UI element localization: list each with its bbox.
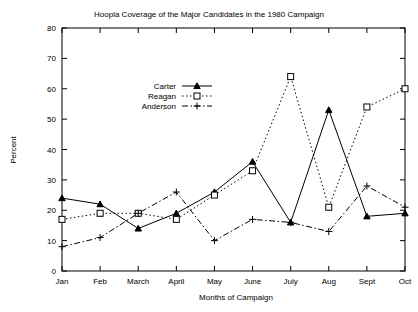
y-tick-label: 80 (47, 24, 56, 33)
data-point-marker (402, 86, 408, 92)
x-axis-title: Months of Campaign (199, 293, 273, 302)
y-tick-label: 10 (47, 237, 56, 246)
x-tick-label: Oct (399, 277, 412, 286)
y-tick-label: 60 (47, 85, 56, 94)
data-point-marker (288, 74, 294, 80)
data-point-marker (250, 168, 256, 174)
x-tick-label: Aug (322, 277, 336, 286)
y-tick-label: 30 (47, 176, 56, 185)
data-point-marker (194, 93, 200, 99)
legend-label-reagan: Reagan (148, 92, 176, 101)
chart-background (0, 0, 418, 312)
y-tick-label: 40 (47, 146, 56, 155)
data-point-marker (326, 204, 332, 210)
y-tick-label: 0 (52, 267, 57, 276)
x-tick-label: Jan (56, 277, 69, 286)
x-tick-label: April (168, 277, 184, 286)
chart-container: Hoopla Coverage of the Major Candidates … (0, 0, 418, 312)
y-axis-title: Percent (9, 135, 18, 163)
data-point-marker (97, 210, 103, 216)
x-tick-label: Sept (359, 277, 376, 286)
x-tick-label: June (244, 277, 262, 286)
y-tick-label: 50 (47, 115, 56, 124)
x-tick-label: July (284, 277, 298, 286)
x-tick-label: March (127, 277, 149, 286)
line-chart: Hoopla Coverage of the Major Candidates … (0, 0, 418, 312)
data-point-marker (59, 216, 65, 222)
legend-label-carter: Carter (154, 82, 177, 91)
data-point-marker (173, 216, 179, 222)
data-point-marker (364, 104, 370, 110)
chart-title: Hoopla Coverage of the Major Candidates … (94, 10, 324, 19)
data-point-marker (211, 192, 217, 198)
x-tick-label: Feb (93, 277, 107, 286)
x-tick-label: May (207, 277, 222, 286)
legend-label-anderson: Anderson (142, 102, 176, 111)
y-tick-label: 20 (47, 206, 56, 215)
y-tick-label: 70 (47, 54, 56, 63)
